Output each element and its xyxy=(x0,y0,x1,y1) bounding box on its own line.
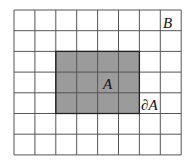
label-set-a: A xyxy=(102,76,113,92)
label-set-b: B xyxy=(163,15,172,31)
grid-lines xyxy=(14,10,181,155)
grid-diagram: B A ∂A xyxy=(0,0,188,161)
label-boundary-a: ∂A xyxy=(141,97,158,113)
